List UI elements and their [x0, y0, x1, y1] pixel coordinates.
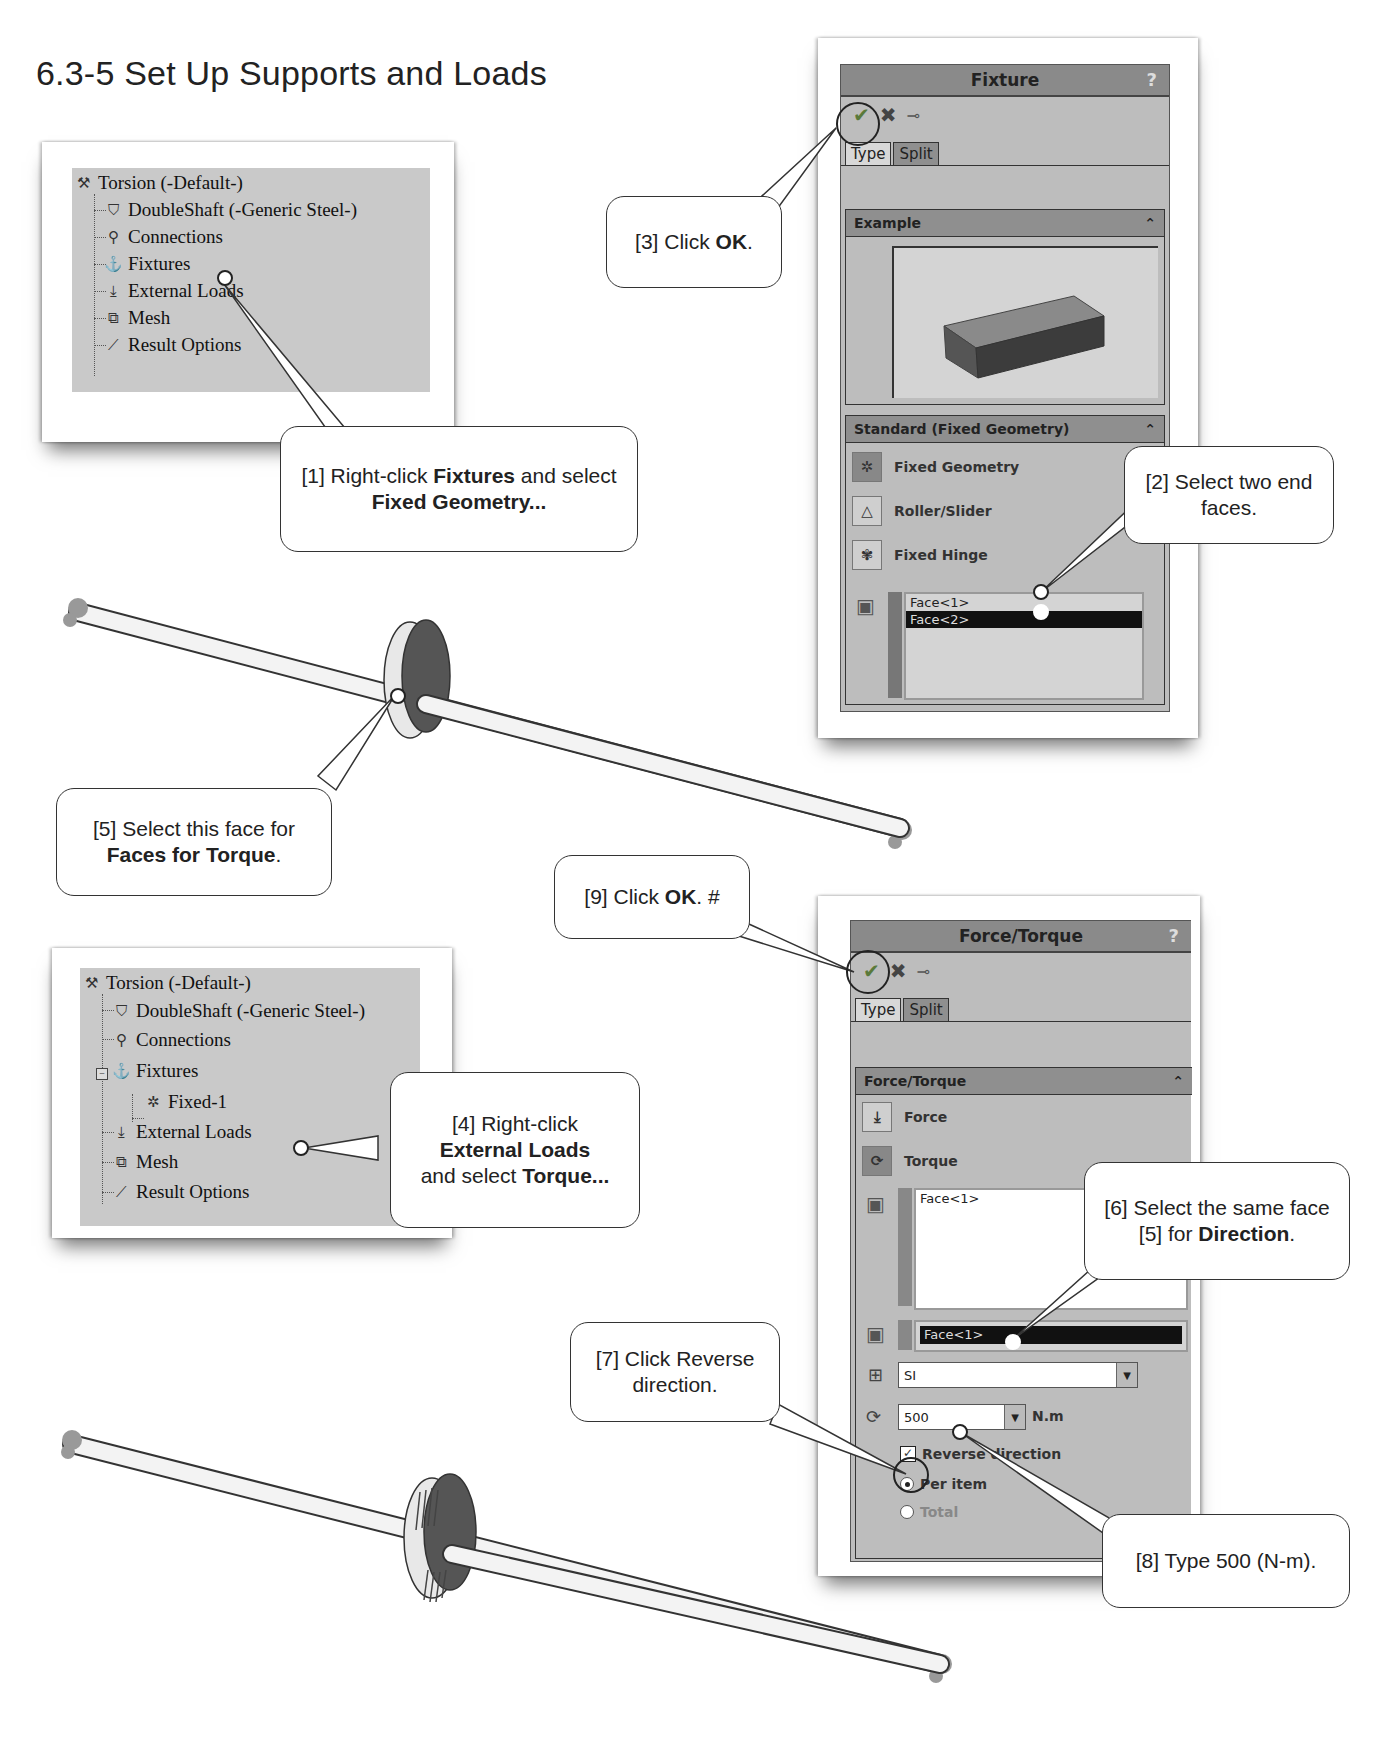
tree-item-part[interactable]: ⛉DoubleShaft (-Generic Steel-) [102, 197, 357, 223]
option-fixed-geometry[interactable]: ✲Fixed Geometry [852, 452, 1019, 482]
tree-item-torsion[interactable]: ⚒Torsion (-Default-) [80, 970, 251, 996]
pointer-dot [217, 270, 233, 286]
fixture-symbol-left [63, 598, 88, 627]
tree-item-connections[interactable]: ⚲Connections [110, 1027, 231, 1053]
tree-item-mesh[interactable]: ⧉Mesh [110, 1149, 178, 1175]
list-item[interactable]: Face<1> [920, 1326, 1182, 1344]
torque-value-icon: ⟳ [866, 1406, 881, 1427]
fixtures-icon: ⚓ [102, 254, 124, 274]
pushpin-icon[interactable]: ⊸ [917, 962, 930, 981]
simulation-tree-2: ⚒Torsion (-Default-) ⛉DoubleShaft (-Gene… [80, 968, 420, 1226]
force-title-bar: Force/Torque ? [851, 921, 1191, 953]
callout-5: [5] Select this face for Faces for Torqu… [56, 788, 332, 896]
help-icon[interactable]: ? [1169, 925, 1179, 946]
result-options-icon: ⟋ [110, 1182, 132, 1202]
tree-item-fixtures[interactable]: ⚓Fixtures [102, 251, 190, 277]
tree-item-result-options[interactable]: ⟋Result Options [102, 332, 241, 358]
torque-icon: ⟳ [862, 1146, 892, 1176]
fixture-symbol-right [929, 1654, 952, 1683]
tree-item-connections[interactable]: ⚲Connections [102, 224, 223, 250]
radio-total[interactable]: Total [900, 1504, 958, 1520]
torque-unit-label: N.m [1032, 1408, 1064, 1424]
external-loads-icon: ⤓ [102, 281, 124, 301]
collapse-icon[interactable]: ⌃ [1144, 421, 1156, 437]
study-icon: ⚒ [80, 973, 102, 993]
callout-7: [7] Click Reverse direction. [570, 1322, 780, 1422]
pointer-dot [1033, 604, 1049, 620]
tree-item-fixtures[interactable]: ⚓Fixtures [110, 1058, 198, 1084]
part-icon: ⛉ [110, 1001, 132, 1021]
pointer-dot [293, 1140, 309, 1156]
mesh-icon: ⧉ [102, 308, 124, 328]
fixture-symbol-right [888, 820, 912, 849]
example-group: Example⌃ [845, 209, 1165, 405]
ok-highlight-ring [836, 102, 880, 146]
direction-listbox[interactable]: Face<1> [914, 1320, 1188, 1352]
simulation-tree-1: ⚒Torsion (-Default-) ⛉DoubleShaft (-Gene… [72, 168, 430, 392]
roller-slider-icon: △ [852, 496, 882, 526]
connections-icon: ⚲ [110, 1030, 132, 1050]
fixtures-icon: ⚓ [110, 1061, 132, 1081]
tree-item-fixed-1[interactable]: ✲Fixed-1 [142, 1089, 227, 1115]
fixture-symbol-left [61, 1430, 82, 1459]
faces-listbox[interactable]: Face<1> Face<2> [904, 592, 1144, 700]
callout-1: [1] Right-click Fixtures and select Fixe… [280, 426, 638, 552]
tab-type[interactable]: Type [845, 142, 891, 165]
list-item[interactable]: Face<2> [906, 611, 1142, 628]
list-item[interactable]: Face<1> [906, 594, 1142, 611]
tab-split[interactable]: Split [893, 142, 938, 165]
callout-6: [6] Select the same face [5] for Directi… [1084, 1162, 1350, 1280]
result-options-icon: ⟋ [102, 335, 124, 355]
collapse-icon[interactable]: ⌃ [1144, 215, 1156, 231]
cancel-button[interactable]: ✖ [880, 103, 897, 127]
tree-item-torsion[interactable]: ⚒Torsion (-Default-) [72, 170, 243, 196]
force-toolbar: ✔ ✖ ⊸ [851, 953, 1191, 989]
option-roller-slider[interactable]: △Roller/Slider [852, 496, 992, 526]
block-example-icon [894, 248, 1158, 398]
force-tabs: Type Split [851, 989, 1191, 1022]
fixture-title-bar: Fixture ? [841, 65, 1169, 97]
option-fixed-hinge[interactable]: ✾Fixed Hinge [852, 540, 988, 570]
part-icon: ⛉ [102, 200, 124, 220]
selection-color-bar [898, 1320, 912, 1350]
reverse-direction-checkbox[interactable]: ✓ Reverse direction [900, 1446, 1061, 1462]
external-loads-icon: ⤓ [110, 1122, 132, 1142]
tab-split[interactable]: Split [903, 998, 948, 1021]
pointer-dot [390, 688, 406, 704]
pushpin-icon[interactable]: ⊸ [907, 106, 920, 125]
fixture-toolbar: ✔ ✖ ⊸ [841, 97, 1169, 133]
tree-item-result-options[interactable]: ⟋Result Options [110, 1179, 249, 1205]
callout-3: [3] Click OK. [606, 196, 782, 288]
chevron-down-icon[interactable]: ▼ [1116, 1363, 1137, 1387]
tree-item-external-loads[interactable]: ⤓External Loads [110, 1119, 252, 1145]
tab-type[interactable]: Type [855, 998, 901, 1021]
selection-color-bar [898, 1188, 912, 1306]
fixed-hinge-icon: ✾ [852, 540, 882, 570]
collapse-toggle[interactable]: − [96, 1068, 108, 1080]
selection-color-bar [888, 592, 902, 698]
connections-icon: ⚲ [102, 227, 124, 247]
tree-item-part[interactable]: ⛉DoubleShaft (-Generic Steel-) [110, 998, 365, 1024]
fixture-tabs: Type Split [841, 133, 1169, 166]
fixed-geometry-icon: ✲ [852, 452, 882, 482]
chevron-down-icon[interactable]: ▼ [1004, 1405, 1025, 1429]
option-torque[interactable]: ⟳Torque [862, 1146, 958, 1176]
callout-4: [4] Right-click External Loads and selec… [390, 1072, 640, 1228]
face-selection-icon: ▣ [866, 1192, 888, 1214]
callout-8: [8] Type 500 (N-m). [1102, 1514, 1350, 1608]
callout-2: [2] Select two end faces. [1124, 446, 1334, 544]
checkbox-highlight-ring [893, 1457, 929, 1493]
collapse-icon[interactable]: ⌃ [1172, 1073, 1184, 1089]
radio-unselected-icon[interactable] [900, 1505, 914, 1519]
unit-system-select[interactable]: SI ▼ [898, 1362, 1138, 1388]
pointer-dot [952, 1424, 968, 1440]
tree-item-mesh[interactable]: ⧉Mesh [102, 305, 170, 331]
option-force[interactable]: ⤓Force [862, 1102, 947, 1132]
fixed-icon: ✲ [142, 1092, 164, 1112]
help-icon[interactable]: ? [1147, 69, 1157, 90]
cancel-button[interactable]: ✖ [890, 959, 907, 983]
pointer-dot [1005, 1334, 1021, 1350]
pointer-dot [1033, 584, 1049, 600]
mesh-icon: ⧉ [110, 1152, 132, 1172]
section-title: 6.3-5 Set Up Supports and Loads [36, 54, 547, 93]
